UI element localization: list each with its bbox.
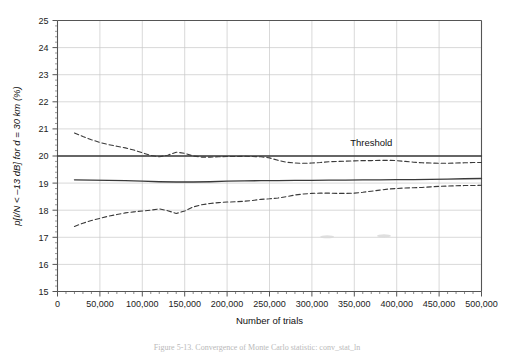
y-tick-label: 17 [38,233,48,243]
y-tick-label: 21 [38,124,48,134]
x-tick-label: 350,000 [338,299,371,309]
y-tick-label: 24 [38,43,48,53]
y-tick-label: 25 [38,16,48,26]
x-tick-label: 250,000 [253,299,286,309]
x-tick-label: 150,000 [168,299,201,309]
x-tick-label: 300,000 [296,299,329,309]
y-tick-label: 15 [38,287,48,297]
x-tick-label: 500,000 [465,299,498,309]
figure-caption: Figure 5-13. Convergence of Monte Carlo … [154,343,360,352]
x-tick-label: 0 [55,299,60,309]
caption-text: Figure 5-13. Convergence of Monte Carlo … [154,343,360,352]
scan-speck-2 [377,234,391,237]
convergence-line-chart: 050,000100,000150,000200,000250,000300,0… [0,0,515,352]
y-tick-label: 16 [38,260,48,270]
x-tick-label: 100,000 [126,299,159,309]
y-tick-label: 20 [38,151,48,161]
y-tick-label: 23 [38,70,48,80]
y-tick-label: 19 [38,179,48,189]
x-tick-label: 450,000 [423,299,456,309]
y-tick-label: 18 [38,206,48,216]
y-tick-label: 22 [38,97,48,107]
y-axis-title: p[I/N < –13 dB] for d = 30 km (%) [11,86,22,226]
figure-container: 050,000100,000150,000200,000250,000300,0… [0,0,515,352]
x-tick-label: 50,000 [86,299,114,309]
scan-speck-1 [320,235,334,238]
chart-annotations: Threshold [350,137,392,148]
x-axis-title: Number of trials [236,315,303,326]
x-tick-label: 200,000 [211,299,244,309]
threshold-label: Threshold [350,137,392,148]
x-tick-label: 400,000 [380,299,413,309]
